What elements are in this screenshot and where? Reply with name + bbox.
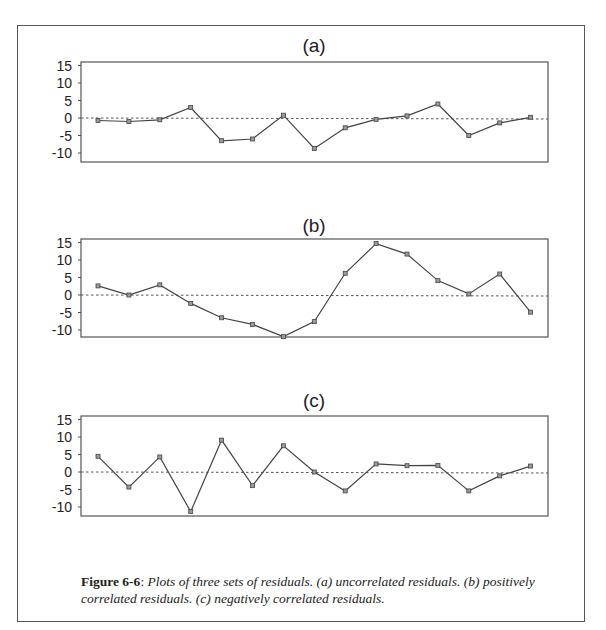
panel-c: (c)151050-5-10 — [52, 390, 548, 516]
data-point-marker — [467, 134, 471, 138]
y-tick-label: -5 — [60, 305, 73, 321]
data-point-marker — [312, 146, 316, 150]
y-tick-label: 5 — [64, 447, 72, 463]
data-point-marker — [158, 118, 162, 122]
data-point-marker — [189, 510, 193, 514]
y-tick-label: -10 — [52, 499, 72, 515]
data-point-marker — [281, 113, 285, 117]
data-point-marker — [251, 484, 255, 488]
y-tick-label: 0 — [64, 110, 72, 126]
panel-b: (b)151050-5-10 — [52, 215, 548, 339]
y-tick-label: 5 — [64, 93, 72, 109]
data-point-marker — [374, 462, 378, 466]
figure-caption: Figure 6-6: Plots of three sets of resid… — [81, 573, 561, 607]
data-point-marker — [498, 121, 502, 125]
residual-plots: (a)151050-5-10(b)151050-5-10(c)151050-5-… — [0, 0, 606, 630]
data-point-marker — [436, 463, 440, 467]
y-tick-label: -10 — [52, 145, 72, 161]
data-point-marker — [467, 489, 471, 493]
data-point-marker — [281, 444, 285, 448]
data-point-marker — [127, 485, 131, 489]
data-point-marker — [96, 118, 100, 122]
data-point-marker — [127, 120, 131, 124]
panel-a: (a)151050-5-10 — [52, 35, 548, 162]
data-point-marker — [374, 242, 378, 246]
y-tick-label: 10 — [56, 252, 72, 268]
y-tick-label: -5 — [60, 482, 73, 498]
data-point-marker — [405, 464, 409, 468]
data-point-marker — [96, 454, 100, 458]
data-point-marker — [312, 320, 316, 324]
data-point-marker — [220, 438, 224, 442]
y-tick-label: 15 — [56, 412, 72, 428]
data-point-marker — [127, 293, 131, 297]
data-point-marker — [529, 310, 533, 314]
y-tick-label: 15 — [56, 58, 72, 74]
zero-reference-line — [81, 118, 548, 119]
panel-title: (a) — [302, 35, 325, 56]
data-point-marker — [498, 474, 502, 478]
residual-line — [98, 104, 531, 148]
y-tick-label: -5 — [60, 128, 73, 144]
data-point-marker — [158, 455, 162, 459]
data-point-marker — [189, 301, 193, 305]
y-tick-label: 15 — [56, 235, 72, 251]
zero-reference-line — [81, 295, 548, 296]
y-tick-label: 5 — [64, 270, 72, 286]
data-point-marker — [251, 322, 255, 326]
residual-line — [98, 440, 531, 512]
data-point-marker — [436, 102, 440, 106]
data-point-marker — [405, 252, 409, 256]
data-point-marker — [374, 117, 378, 121]
data-point-marker — [189, 106, 193, 110]
data-point-marker — [343, 489, 347, 493]
data-point-marker — [343, 126, 347, 130]
y-tick-label: 0 — [64, 464, 72, 480]
data-point-marker — [251, 137, 255, 141]
panel-title: (b) — [302, 215, 325, 236]
data-point-marker — [343, 271, 347, 275]
data-point-marker — [498, 272, 502, 276]
y-tick-label: 10 — [56, 429, 72, 445]
data-point-marker — [96, 284, 100, 288]
panel-title: (c) — [303, 390, 325, 411]
caption-text: Plots of three sets of residuals. (a) un… — [81, 574, 535, 606]
data-point-marker — [220, 316, 224, 320]
data-point-marker — [220, 139, 224, 143]
data-point-marker — [281, 335, 285, 339]
data-point-marker — [158, 283, 162, 287]
caption-separator: : — [140, 574, 147, 589]
data-point-marker — [529, 115, 533, 119]
y-tick-label: 10 — [56, 75, 72, 91]
data-point-marker — [436, 279, 440, 283]
data-point-marker — [467, 292, 471, 296]
data-point-marker — [405, 114, 409, 118]
data-point-marker — [312, 470, 316, 474]
y-tick-label: -10 — [52, 322, 72, 338]
y-tick-label: 0 — [64, 287, 72, 303]
data-point-marker — [529, 464, 533, 468]
figure-label: Figure 6-6 — [81, 574, 140, 589]
